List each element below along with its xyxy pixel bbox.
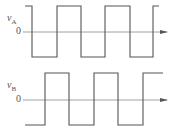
- square-wave-vb: [25, 73, 163, 125]
- waveform-diagram: [0, 0, 178, 133]
- square-wave-va: [25, 6, 159, 57]
- signal-label-vb: vB: [7, 80, 16, 90]
- signal-subscript-vb: B: [11, 85, 16, 93]
- signal-label-va: vA: [7, 13, 17, 23]
- zero-label-va: 0: [16, 26, 21, 36]
- panel-vb: [23, 73, 167, 125]
- panel-va: [23, 6, 167, 57]
- zero-label-vb: 0: [16, 94, 21, 104]
